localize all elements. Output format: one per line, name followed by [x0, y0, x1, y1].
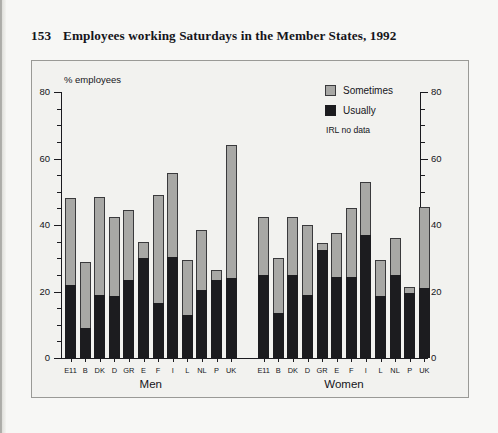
chart-frame [31, 60, 469, 398]
legend-label-sometimes: Sometimes [343, 85, 393, 96]
legend-item-usually: Usually [325, 105, 393, 116]
legend-note: IRL no data [326, 125, 393, 135]
chart-legend: Sometimes Usually IRL no data [325, 85, 393, 135]
figure-title-text: Employees working Saturdays in the Membe… [63, 28, 396, 44]
y-axis-title: % employees [64, 74, 121, 85]
legend-item-sometimes: Sometimes [325, 85, 393, 96]
legend-swatch-sometimes [325, 85, 336, 96]
paper-edge-shadow [0, 0, 2, 433]
figure-number: 153 [31, 28, 51, 44]
legend-swatch-usually [325, 105, 336, 116]
figure-title: 153 Employees working Saturdays in the M… [31, 28, 396, 44]
legend-label-usually: Usually [343, 105, 376, 116]
